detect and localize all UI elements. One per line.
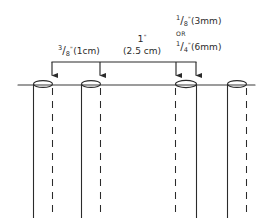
tube-3-top-ellipse	[176, 80, 197, 87]
thickness-conjunction: OR	[176, 30, 186, 37]
label-spacing-left: 3/8"(1cm)	[58, 44, 100, 58]
tube-2	[82, 81, 101, 218]
spacing-center-metric: (2.5 cm)	[123, 46, 161, 56]
thickness-option-two-metric: (6mm)	[191, 42, 221, 52]
svg-text:1/4"(6mm): 1/4"(6mm)	[176, 40, 221, 54]
tube-4-top-ellipse	[228, 81, 247, 88]
tube-spacing-diagram: 3/8"(1cm) 1" (2.5 cm) 1/8"(3mm) OR 1/4"(…	[0, 0, 266, 218]
tube-4	[228, 81, 247, 218]
diagram-canvas: 3/8"(1cm) 1" (2.5 cm) 1/8"(3mm) OR 1/4"(…	[0, 0, 266, 218]
dimension-bracket-group	[52, 62, 196, 76]
spacing-center-inch-mark: "	[144, 33, 147, 40]
label-spacing-center: 1" (2.5 cm)	[123, 33, 161, 56]
tube-2-top-ellipse	[82, 81, 101, 88]
tube-1-top-ellipse	[34, 81, 53, 88]
thickness-option-one-metric: (3mm)	[191, 16, 221, 26]
svg-text:3/8"(1cm): 3/8"(1cm)	[58, 44, 100, 58]
tube-3	[176, 80, 197, 218]
label-wall-thickness: 1/8"(3mm) OR 1/4"(6mm)	[176, 14, 221, 54]
svg-text:1/8"(3mm): 1/8"(3mm)	[176, 14, 221, 28]
spacing-left-metric: (1cm)	[73, 46, 99, 56]
svg-text:1": 1"	[138, 33, 147, 44]
tube-1	[34, 81, 53, 218]
